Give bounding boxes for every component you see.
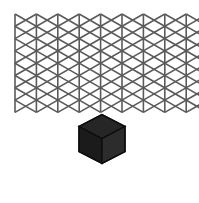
lattice-canvas	[0, 0, 199, 203]
isometric-lattice-figure	[0, 0, 199, 203]
